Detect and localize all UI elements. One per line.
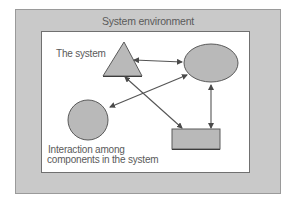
rectangle-component bbox=[172, 129, 220, 149]
arrow-circle-ellipse bbox=[110, 75, 187, 107]
circle-component bbox=[68, 100, 108, 140]
arrow-triangle-rectangle bbox=[125, 77, 182, 128]
triangle-component bbox=[103, 42, 142, 76]
system-label: The system bbox=[56, 49, 106, 59]
diagram-canvas: System environment The system Interactio… bbox=[0, 0, 295, 207]
ellipse-component bbox=[184, 44, 238, 82]
arrow-triangle-ellipse bbox=[134, 60, 182, 62]
diagram-shapes bbox=[0, 0, 295, 207]
interaction-caption-line2: components in the system bbox=[47, 155, 158, 165]
